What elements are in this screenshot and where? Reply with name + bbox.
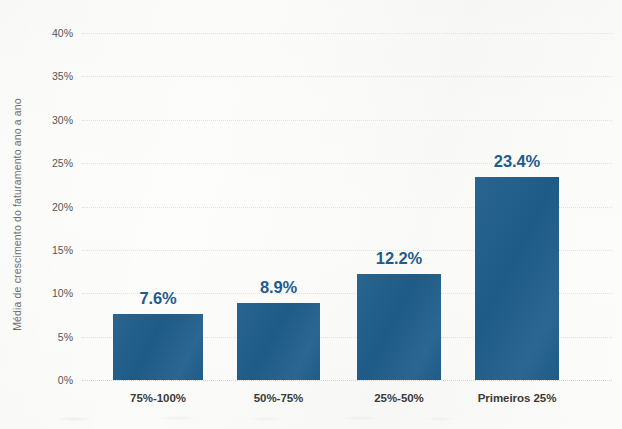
- y-tick-label: 40%: [52, 27, 73, 39]
- gridline: [82, 76, 612, 77]
- gridline: [82, 33, 612, 34]
- x-category-label: 50%-75%: [254, 392, 304, 404]
- gridline: [82, 120, 612, 121]
- y-tick-label: 25%: [52, 157, 73, 169]
- bar-value-label: 7.6%: [139, 289, 176, 308]
- y-tick-label: 15%: [52, 244, 73, 256]
- y-tick-label: 20%: [52, 201, 73, 213]
- y-tick-label: 10%: [52, 287, 73, 299]
- chart-screenshot: Média de crescimento do faturamento ano …: [0, 0, 622, 429]
- bar[interactable]: [357, 274, 441, 380]
- y-tick-label: 5%: [58, 331, 73, 343]
- y-axis-title: Média de crescimento do faturamento ano …: [0, 0, 34, 429]
- bar[interactable]: [237, 303, 320, 380]
- y-tick-label: 35%: [52, 70, 73, 82]
- bar[interactable]: [113, 314, 203, 380]
- x-category-label: 75%-100%: [130, 392, 186, 404]
- y-tick-label: 0%: [58, 374, 73, 386]
- x-category-label: Primeiros 25%: [478, 392, 557, 404]
- bar-value-label: 12.2%: [376, 249, 422, 268]
- x-category-label: 25%-50%: [374, 392, 424, 404]
- y-tick-label: 30%: [52, 114, 73, 126]
- plot-area: 0%5%10%15%20%25%30%35%40% 7.6%8.9%12.2%2…: [82, 33, 612, 380]
- scan-bleed-artifact: [60, 414, 530, 424]
- gridline: [82, 380, 612, 381]
- bar-value-label: 23.4%: [494, 152, 540, 171]
- bar-value-label: 8.9%: [260, 278, 297, 297]
- bar[interactable]: [475, 177, 559, 380]
